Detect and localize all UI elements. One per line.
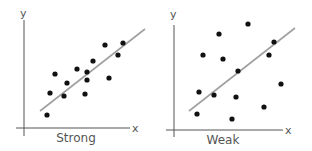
data-point [194, 111, 199, 116]
data-point [52, 71, 57, 76]
data-point [200, 52, 205, 57]
strong-x-label: x [132, 122, 139, 135]
strong-points [44, 40, 125, 117]
data-point [220, 56, 225, 61]
strong-y-label: y [20, 7, 27, 20]
data-point [261, 104, 266, 109]
data-point [82, 91, 87, 96]
data-point [115, 52, 120, 57]
data-point [106, 75, 111, 80]
scatter-diagrams: y x Strong y x Weak [0, 0, 312, 151]
weak-caption: Weak [207, 133, 240, 147]
data-point [44, 112, 49, 117]
data-point [245, 21, 250, 26]
data-point [61, 93, 66, 98]
data-point [84, 77, 89, 82]
data-point [64, 80, 69, 85]
data-point [102, 42, 107, 47]
data-point [216, 31, 221, 36]
data-point [120, 40, 125, 45]
data-point [90, 58, 95, 63]
weak-x-label: x [285, 124, 292, 137]
data-point [235, 68, 240, 73]
data-point [84, 69, 89, 74]
data-point [196, 89, 201, 94]
data-point [271, 39, 276, 44]
weak-y-label: y [170, 8, 177, 21]
data-point [266, 52, 271, 57]
weak-points [194, 21, 283, 121]
data-point [211, 92, 216, 97]
strong-caption: Strong [56, 131, 96, 145]
data-point [74, 66, 79, 71]
data-point [278, 81, 283, 86]
data-point [229, 116, 234, 121]
strong-plot: y x Strong [16, 7, 145, 145]
strong-trendline [40, 29, 145, 111]
weak-plot: y x Weak [166, 8, 295, 147]
weak-trendline [189, 28, 295, 111]
data-point [47, 90, 52, 95]
data-point [233, 94, 238, 99]
